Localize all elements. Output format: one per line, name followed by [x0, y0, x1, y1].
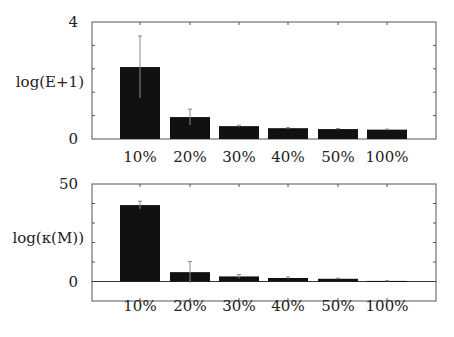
- x-tick-label: 40%: [271, 148, 304, 166]
- bar-10pct: [120, 205, 160, 281]
- x-tick-label: 30%: [222, 297, 255, 315]
- x-tick-label: 30%: [222, 148, 255, 166]
- x-tick-label: 100%: [366, 297, 409, 315]
- y-tick-label: 50: [59, 175, 78, 193]
- figure: 10%20%30%40%50%100%04log(E+1)10%20%30%40…: [0, 0, 454, 337]
- chart-panel-2: 10%20%30%40%50%100%050log(κ(M)): [12, 175, 436, 315]
- x-tick-label: 40%: [271, 297, 304, 315]
- y-tick-label: 0: [68, 130, 78, 148]
- x-tick-label: 100%: [366, 148, 409, 166]
- x-tick-label: 20%: [173, 297, 206, 315]
- y-axis-label: log(E+1): [16, 73, 84, 91]
- chart-panel-1: 10%20%30%40%50%100%04log(E+1): [16, 13, 436, 166]
- bar-30pct: [219, 126, 259, 139]
- x-tick-label: 20%: [173, 148, 206, 166]
- x-tick-label: 10%: [123, 148, 156, 166]
- y-tick-label: 0: [68, 273, 78, 291]
- bar-40pct: [268, 128, 308, 139]
- y-tick-label: 4: [68, 13, 78, 31]
- x-tick-label: 10%: [123, 297, 156, 315]
- x-tick-label: 50%: [321, 148, 354, 166]
- y-axis-label: log(κ(M)): [12, 229, 84, 247]
- x-tick-label: 50%: [321, 297, 354, 315]
- bar-50pct: [318, 129, 358, 139]
- bar-100pct: [367, 130, 407, 139]
